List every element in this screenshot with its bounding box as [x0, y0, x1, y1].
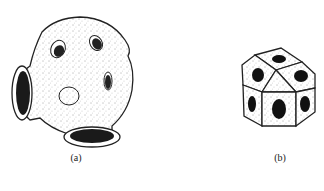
- caption-a: (a): [61, 152, 91, 163]
- sphere-illustration: [12, 17, 133, 147]
- polyhedron-illustration: [242, 48, 315, 126]
- figure: (a) (b): [0, 0, 324, 191]
- caption-b: (b): [265, 152, 295, 163]
